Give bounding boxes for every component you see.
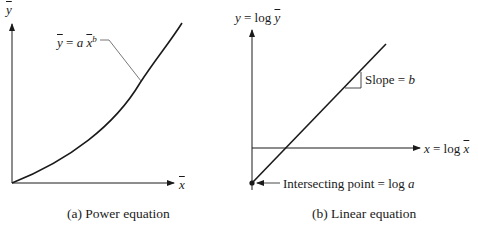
- x-var: x: [424, 141, 430, 156]
- power-equation-label: y = a xb: [57, 35, 97, 49]
- x-bar-var: x: [463, 141, 469, 156]
- x-eq: = log: [433, 141, 460, 156]
- eq-exp: b: [92, 34, 97, 44]
- panel-b-y-axis-label: y = log y: [235, 11, 280, 24]
- panel-a-graphics: [12, 23, 182, 183]
- power-curve: [12, 23, 182, 183]
- slope-var: b: [408, 72, 415, 87]
- slope-triangle: [345, 72, 361, 88]
- panel-a-x-axis-label: x: [179, 178, 185, 191]
- intercept-label: Intersecting point = log a: [283, 177, 415, 190]
- intercept-var: a: [408, 176, 415, 191]
- y-eq: = log: [244, 10, 271, 25]
- intercept-point: [249, 180, 254, 185]
- linear-line: [252, 44, 386, 183]
- y-bar-var: y: [274, 10, 280, 25]
- panel-a-caption: (a) Power equation: [67, 207, 170, 221]
- slope-label: Slope = b: [365, 73, 415, 86]
- panel-b-caption: (b) Linear equation: [312, 207, 416, 221]
- eq-coef: a: [77, 35, 84, 50]
- panel-b-graphics: [249, 30, 420, 190]
- panel-a-y-axis-label: y: [6, 3, 12, 16]
- slope-text: Slope =: [365, 72, 408, 87]
- y-var: y: [235, 10, 241, 25]
- eq-lhs: y: [57, 35, 63, 50]
- curve-leader-line: [100, 40, 141, 81]
- intercept-text: Intersecting point = log: [283, 176, 408, 191]
- eq-sign: =: [66, 35, 73, 50]
- panel-b-x-axis-label: x = log x: [424, 142, 469, 155]
